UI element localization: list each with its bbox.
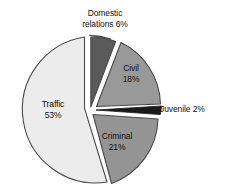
slice-label-criminal: Criminal 21% bbox=[88, 131, 146, 152]
slice-label-juvenile: Juvenile 2% bbox=[160, 104, 224, 115]
pie-chart: Traffic 53% Criminal 21% Civil 18% Domes… bbox=[0, 0, 225, 196]
slice-label-civil: Civil 18% bbox=[108, 63, 154, 84]
slice-label-domestic-relations: Domestic relations 6% bbox=[62, 8, 148, 30]
slice-juvenile[interactable] bbox=[96, 106, 162, 115]
slice-label-traffic: Traffic 53% bbox=[26, 99, 80, 120]
